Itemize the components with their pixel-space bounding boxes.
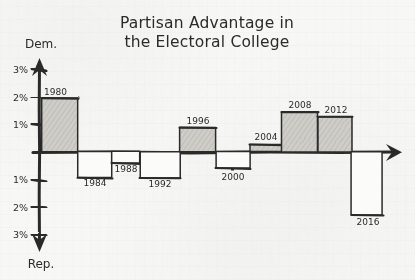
bar-1992 [140, 152, 181, 178]
bar-year-label-1984: 1984 [84, 178, 107, 188]
bar-year-label-1996: 1996 [187, 116, 210, 126]
bar-2000 [216, 151, 251, 169]
axis-label-rep: Rep. [28, 257, 55, 271]
bar-year-label-1988: 1988 [115, 164, 138, 174]
chart-title-line-2: the Electoral College [124, 33, 289, 51]
bar-1984 [78, 151, 113, 178]
bars-layer [42, 98, 384, 215]
bar-rect [180, 128, 216, 152]
bar-rect [42, 98, 78, 152]
bar-rect [112, 151, 140, 163]
partisan-advantage-chart: Partisan Advantage in the Electoral Coll… [0, 0, 415, 280]
y-tick-label: 1% [13, 119, 28, 130]
y-tick-label: 3% [13, 229, 28, 240]
chart-title-line-1: Partisan Advantage in [120, 14, 294, 32]
bar-2012 [318, 117, 353, 152]
bar-rect [216, 151, 250, 168]
bar-year-label-1992: 1992 [149, 179, 172, 189]
bar-rect [78, 151, 112, 177]
bar-year-label-2000: 2000 [222, 172, 245, 182]
y-tick-mark [32, 234, 46, 235]
bar-2016 [351, 152, 383, 216]
bar-year-label-2016: 2016 [357, 217, 380, 227]
y-tick-label: 1% [13, 174, 28, 185]
bar-2004 [250, 144, 283, 151]
bar-2008 [281, 112, 318, 152]
bar-edge [216, 168, 251, 169]
bar-year-label-1980: 1980 [44, 87, 67, 97]
bar-rect [351, 152, 382, 215]
y-tick-mark [32, 180, 46, 182]
y-tick-mark [32, 207, 46, 208]
y-tick-label: 2% [13, 92, 28, 103]
bar-rect [318, 117, 352, 152]
bar-1996 [180, 128, 217, 152]
bar-year-label-2004: 2004 [255, 132, 278, 142]
chart-container: Partisan Advantage in the Electoral Coll… [0, 0, 415, 280]
bar-rect [281, 112, 317, 152]
bar-edge [250, 145, 283, 146]
y-tick-label: 3% [13, 64, 28, 75]
bar-1988 [112, 151, 141, 164]
axis-label-dem: Dem. [25, 37, 57, 51]
bar-rect [140, 152, 180, 178]
y-tick-label: 2% [13, 202, 28, 213]
bar-1980 [42, 98, 79, 152]
bar-year-label-2008: 2008 [289, 100, 312, 110]
chart-title: Partisan Advantage in the Electoral Coll… [120, 14, 294, 51]
bar-year-label-2012: 2012 [325, 105, 348, 115]
